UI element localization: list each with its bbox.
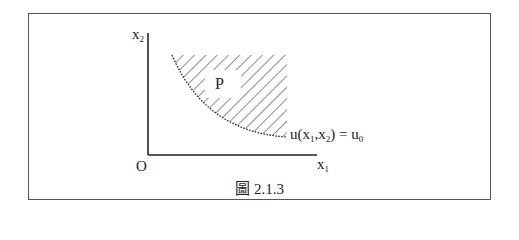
region-label: P — [215, 76, 224, 92]
region-p-hatch — [165, 50, 295, 145]
y-axis-label: x2 — [132, 27, 144, 44]
figure-caption: 圖 2.1.3 — [0, 177, 519, 198]
curve-label: u(x1,x2) = u0 — [290, 127, 363, 144]
x-axis-label: x1 — [317, 157, 329, 174]
origin-label: O — [136, 159, 147, 174]
